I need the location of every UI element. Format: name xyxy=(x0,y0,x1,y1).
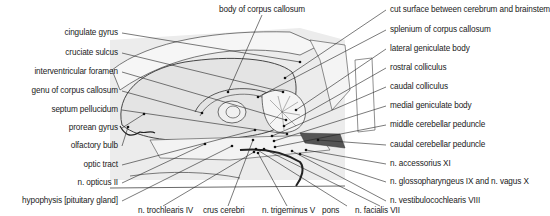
leader-dot xyxy=(253,151,256,154)
label-cingulate-gyrus: cingulate gyrus xyxy=(64,28,118,38)
label-optic-tract: optic tract xyxy=(84,160,118,170)
leader-dot xyxy=(127,126,130,129)
label-hypophysis-pituitary-gland: hypophysis [pituitary gland] xyxy=(22,196,118,206)
label-middle-cerebellar-peduncle: middle cerebellar peduncle xyxy=(390,120,485,130)
label-medial-geniculate-body: medial geniculate body xyxy=(390,101,472,111)
leader-dot xyxy=(284,77,287,80)
label-n-trigeminus-v: n. trigeminus V xyxy=(262,206,315,216)
leader-dot xyxy=(143,113,146,116)
label-rostral-colliculus: rostral colliculus xyxy=(390,63,446,73)
label-cut-surface-between-cerebrum-and-brainstem: cut surface between cerebrum and brainst… xyxy=(390,5,550,15)
label-prorean-gyrus: prorean gyrus xyxy=(69,123,118,133)
label-interventricular-foramen: interventricular foramen xyxy=(34,67,118,77)
leader-dot xyxy=(231,145,234,148)
label-lateral-geniculate-body: lateral geniculate body xyxy=(390,44,470,54)
leader-dot xyxy=(227,91,230,94)
label-n-glossopharyngeus-ix-and-n-vagus-x: n. glossopharyngeus IX and n. vagus X xyxy=(390,177,529,187)
leader-dot xyxy=(257,152,260,155)
leader-dot xyxy=(252,139,255,142)
leader-dot xyxy=(271,135,274,138)
label-caudal-colliculus: caudal colliculus xyxy=(390,82,448,92)
leader-dot xyxy=(305,149,308,152)
leader-dot xyxy=(201,112,204,115)
leader-dot xyxy=(263,148,266,151)
leader-dot xyxy=(283,125,286,128)
label-olfactory-bulb: olfactory bulb xyxy=(71,141,118,151)
leader-dot xyxy=(254,129,257,132)
label-n-vestibulocochlearis-viii: n. vestibulocochlearis VIII xyxy=(390,196,480,206)
label-body-of-corpus-callosum: body of corpus callosum xyxy=(219,5,305,15)
label-caudal-cerebellar-peduncle: caudal cerebellar peduncle xyxy=(390,140,485,150)
leader-dot xyxy=(255,148,258,151)
label-n-accessorius-xi: n. accessorius XI xyxy=(390,159,451,169)
leader-dot xyxy=(299,61,302,64)
leader-dot xyxy=(317,139,320,142)
label-crus-cerebri: crus cerebri xyxy=(203,206,245,216)
label-n-trochlearis-iv: n. trochlearis IV xyxy=(138,206,193,216)
leader-dot xyxy=(291,150,294,153)
label-n-opticus-ii: n. opticus II xyxy=(77,178,118,188)
leader-dot xyxy=(257,96,260,99)
leader-dot xyxy=(204,143,207,146)
leader-dot xyxy=(273,140,276,143)
label-cruciate-sulcus: cruciate sulcus xyxy=(65,48,118,58)
label-septum-pellucidum: septum pellucidum xyxy=(51,105,118,115)
label-pons: pons xyxy=(322,206,339,216)
label-splenium-of-corpus-callosum: splenium of corpus callosum xyxy=(390,25,491,35)
leader-dot xyxy=(282,91,285,94)
leader-dot xyxy=(286,133,289,136)
label-genu-of-corpus-callosum: genu of corpus callosum xyxy=(32,86,118,96)
label-n-facialis-vii: n. facialis VII xyxy=(355,206,400,216)
leader-dot xyxy=(285,119,288,122)
leader-dot xyxy=(274,146,277,149)
leader-dot xyxy=(299,153,302,156)
leader-dot xyxy=(295,109,298,112)
